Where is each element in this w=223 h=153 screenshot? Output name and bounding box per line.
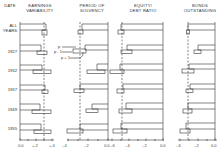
panel-period-of-solvency: [67, 22, 110, 141]
tick-panel1-1: +.2: [32, 143, 38, 148]
tick-panel4-2: 0.0: [211, 143, 217, 148]
tick-panel1-2: +.4: [49, 143, 55, 148]
tick-panel3-2: -.2: [142, 143, 147, 148]
panel-earnings-variability: [20, 22, 54, 141]
panel-bonds-outstanding: [178, 22, 217, 141]
annotation-p-plus-1: p + 1: [61, 56, 70, 60]
tick-panel2-2: 0.0: [104, 143, 110, 148]
tick-panel1-0: 0.0: [18, 143, 24, 148]
panel-equity-debt-ratio: [110, 22, 164, 141]
tick-panel3-1: -.4: [125, 143, 130, 148]
tick-panel2-0: -.4: [62, 143, 67, 148]
tick-panel4-0: -.6: [176, 143, 181, 148]
tick-panel3-0: -.6: [110, 143, 115, 148]
tick-panel3-3: 0.0: [160, 143, 166, 148]
interval-chart: [0, 0, 223, 153]
tick-panel4-1: -.2: [194, 143, 199, 148]
tick-panel2-1: -.2: [84, 143, 89, 148]
annotation-p-minus-1: p - 1: [54, 50, 62, 54]
